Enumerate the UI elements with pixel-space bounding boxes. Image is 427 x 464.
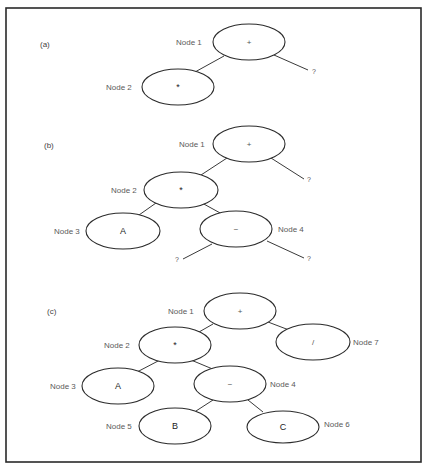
- node-symbol: −: [234, 225, 239, 234]
- node-label: Node 4: [278, 225, 304, 234]
- tree-edge: [195, 56, 224, 72]
- tree-edge: [183, 244, 212, 259]
- node-symbol: −: [228, 380, 233, 389]
- unknown-child-marker: ?: [307, 255, 311, 262]
- tree-edge: [267, 241, 304, 258]
- node-label: Node 7: [353, 338, 379, 347]
- node-label: Node 1: [168, 307, 194, 316]
- unknown-child-marker: ?: [312, 68, 316, 75]
- tree-node: −Node 4: [200, 211, 304, 247]
- node-label: Node 3: [54, 227, 80, 236]
- tree-edge: [268, 322, 289, 330]
- tree-edge: [137, 360, 160, 372]
- tree-edge: [248, 400, 263, 412]
- tree-node: /Node 7: [276, 324, 379, 360]
- tree-edge: [274, 55, 308, 70]
- expression-tree-diagram: (a)+Node 1*Node 2?(b)+Node 1*Node 2ANode…: [0, 0, 427, 464]
- unknown-child-marker: ?: [175, 256, 179, 263]
- tree-node: −Node 4: [194, 366, 296, 402]
- panel-a: (a)+Node 1*Node 2?: [40, 24, 316, 105]
- node-symbol: B: [172, 421, 178, 431]
- tree-edge: [202, 203, 222, 214]
- node-label: Node 6: [324, 420, 350, 429]
- node-symbol: *: [173, 340, 177, 350]
- node-label: Node 2: [111, 186, 137, 195]
- tree-edge: [196, 400, 213, 411]
- unknown-child-marker: ?: [307, 176, 311, 183]
- tree-node: *Node 2: [111, 172, 218, 208]
- tree-node: +Node 1: [176, 24, 285, 60]
- panel-label: (c): [47, 307, 57, 316]
- node-symbol: +: [247, 140, 252, 149]
- node-symbol: +: [247, 38, 252, 47]
- tree-edge: [271, 158, 304, 179]
- node-symbol: A: [120, 226, 126, 236]
- tree-node: ANode 3: [50, 368, 154, 404]
- node-label: Node 2: [106, 83, 132, 92]
- node-symbol: +: [238, 307, 243, 316]
- node-symbol: A: [115, 381, 121, 391]
- panel-b: (b)+Node 1*Node 2ANode 3−Node 4???: [44, 126, 311, 263]
- panel-c: (c)+Node 1*Node 2/Node 7ANode 3−Node 4BN…: [47, 293, 379, 444]
- panel-label: (b): [44, 141, 54, 150]
- tree-node: BNode 5: [106, 408, 211, 444]
- tree-node: *Node 2: [104, 327, 211, 363]
- node-label: Node 2: [104, 341, 130, 350]
- node-label: Node 1: [176, 38, 202, 47]
- tree-node: +Node 1: [168, 293, 276, 329]
- tree-node: CNode 6: [247, 411, 350, 443]
- node-symbol: *: [176, 82, 180, 92]
- tree-edge: [201, 158, 227, 175]
- node-label: Node 1: [179, 140, 205, 149]
- tree-edge: [139, 203, 156, 215]
- panel-label: (a): [40, 40, 50, 49]
- tree-node: *Node 2: [106, 69, 214, 105]
- node-label: Node 3: [50, 382, 76, 391]
- node-label: Node 5: [106, 422, 132, 431]
- tree-node: ANode 3: [54, 213, 160, 249]
- tree-node: +Node 1: [179, 126, 285, 162]
- panels-group: (a)+Node 1*Node 2?(b)+Node 1*Node 2ANode…: [40, 24, 379, 444]
- node-symbol: C: [280, 422, 287, 432]
- node-label: Node 4: [270, 380, 296, 389]
- tree-edge: [199, 324, 213, 332]
- node-symbol: *: [179, 185, 183, 195]
